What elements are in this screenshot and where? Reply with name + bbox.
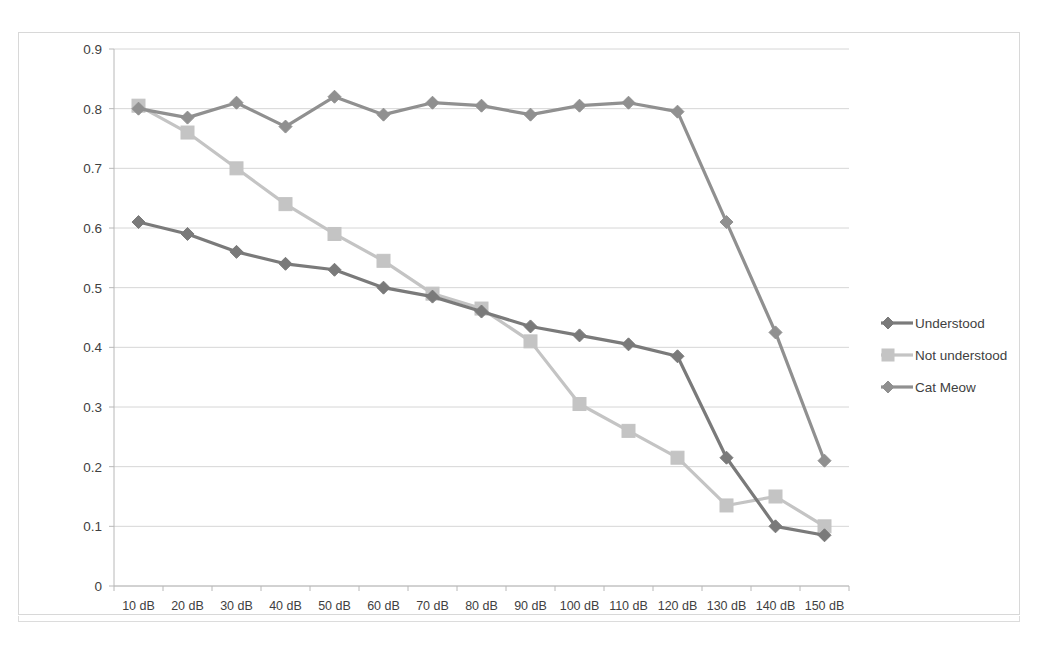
- data-point-marker: [671, 451, 684, 464]
- caption-frame: [18, 616, 1020, 622]
- data-point-marker: [230, 162, 243, 175]
- y-axis-tick-label: 0.8: [83, 102, 102, 117]
- x-axis-tick-label: 150 dB: [805, 599, 845, 613]
- x-axis-tick-label: 90 dB: [514, 599, 547, 613]
- data-point-marker: [524, 320, 537, 333]
- y-axis-tick-label: 0.1: [83, 519, 102, 534]
- data-point-marker: [181, 126, 194, 139]
- y-axis-tick-label: 0.5: [83, 281, 102, 296]
- data-point-marker: [377, 281, 390, 294]
- chart-frame: 0.90.80.70.60.50.40.30.20.1010 dB20 dB30…: [18, 32, 1020, 615]
- data-point-marker: [622, 96, 635, 109]
- data-point-marker: [377, 254, 390, 267]
- legend-label: Understood: [915, 316, 985, 331]
- y-axis-tick-label: 0.3: [83, 400, 102, 415]
- data-point-marker: [818, 454, 831, 467]
- x-axis-tick-label: 110 dB: [609, 599, 648, 613]
- y-axis-tick-label: 0.7: [83, 161, 102, 176]
- legend-item[interactable]: Not understood: [881, 348, 1007, 363]
- x-axis-tick-label: 50 dB: [318, 599, 351, 613]
- y-axis-tick-label: 0.2: [83, 460, 102, 475]
- x-axis-tick-label: 130 dB: [707, 599, 747, 613]
- data-point-marker: [573, 398, 586, 411]
- line-chart: 0.90.80.70.60.50.40.30.20.1010 dB20 dB30…: [19, 33, 1021, 616]
- data-point-marker: [671, 105, 684, 118]
- x-axis-tick-label: 20 dB: [171, 599, 204, 613]
- series-cat-meow: [132, 90, 831, 467]
- data-point-marker: [279, 198, 292, 211]
- y-axis-tick-label: 0: [94, 579, 102, 594]
- data-point-marker: [622, 424, 635, 437]
- series-line: [139, 97, 825, 461]
- data-point-marker: [377, 108, 390, 121]
- data-point-marker: [524, 108, 537, 121]
- x-axis-tick-label: 40 dB: [269, 599, 302, 613]
- data-point-marker: [622, 338, 635, 351]
- x-axis-tick-label: 140 dB: [756, 599, 796, 613]
- y-axis-tick-label: 0.6: [83, 221, 102, 236]
- legend-marker: [882, 317, 894, 329]
- legend-label: Cat Meow: [915, 380, 976, 395]
- data-point-marker: [573, 329, 586, 342]
- x-axis-tick-label: 120 dB: [658, 599, 698, 613]
- legend-label: Not understood: [915, 348, 1007, 363]
- y-axis-tick-label: 0.4: [83, 340, 102, 355]
- y-axis-tick-label: 0.9: [83, 42, 102, 57]
- x-axis-tick-label: 10 dB: [122, 599, 155, 613]
- x-axis-tick-label: 30 dB: [220, 599, 253, 613]
- data-point-marker: [132, 216, 145, 229]
- legend-item[interactable]: Cat Meow: [881, 380, 976, 395]
- data-point-marker: [720, 216, 733, 229]
- data-point-marker: [475, 99, 488, 112]
- legend-item[interactable]: Understood: [881, 316, 985, 331]
- data-point-marker: [426, 96, 439, 109]
- data-point-marker: [769, 326, 782, 339]
- data-point-marker: [328, 227, 341, 240]
- data-point-marker: [769, 490, 782, 503]
- x-axis-tick-label: 70 dB: [416, 599, 449, 613]
- data-point-marker: [181, 227, 194, 240]
- x-axis-tick-label: 100 dB: [560, 599, 600, 613]
- data-point-marker: [279, 257, 292, 270]
- data-point-marker: [181, 111, 194, 124]
- series-line: [139, 222, 825, 535]
- data-point-marker: [573, 99, 586, 112]
- legend-marker: [882, 381, 894, 393]
- data-point-marker: [230, 96, 243, 109]
- data-point-marker: [230, 245, 243, 258]
- series-understood: [132, 216, 831, 542]
- x-axis-tick-label: 80 dB: [465, 599, 498, 613]
- legend: UnderstoodNot understoodCat Meow: [881, 316, 1007, 395]
- data-point-marker: [720, 499, 733, 512]
- x-axis-tick-label: 60 dB: [367, 599, 400, 613]
- plot-area: 0.90.80.70.60.50.40.30.20.1010 dB20 dB30…: [19, 33, 1021, 616]
- data-point-marker: [671, 350, 684, 363]
- data-point-marker: [524, 335, 537, 348]
- legend-marker: [882, 349, 894, 361]
- data-point-marker: [328, 263, 341, 276]
